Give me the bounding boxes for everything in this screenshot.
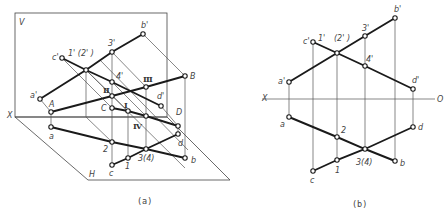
x-axis-label: X (6, 111, 13, 120)
panel-b-caption: (b) (352, 199, 367, 209)
label-4-prime: 4' (366, 55, 373, 64)
label-a-prime: a' (30, 91, 37, 100)
label-a-prime: a' (278, 77, 285, 86)
label-C: C (101, 104, 107, 113)
label-1-prime: 1' (318, 34, 325, 43)
x-axis-label: X (261, 94, 268, 103)
label-roman-1: Ⅰ (124, 100, 128, 110)
panel-a-caption: (a) (137, 196, 152, 206)
label-D: D (176, 108, 182, 117)
label-d-prime: d' (412, 76, 419, 85)
label-roman-3: Ⅲ (143, 74, 153, 84)
label-3-4: 3(4) (138, 154, 154, 163)
label-A: A (48, 100, 54, 109)
label-2: 2 (341, 126, 346, 135)
label-b: b (400, 159, 405, 168)
points (38, 32, 187, 167)
label-2-prime: (2' ) (334, 34, 350, 43)
label-c: c (310, 176, 315, 185)
panel-b: X O (261, 5, 443, 209)
label-3-4: 3(4) (356, 158, 372, 167)
label-3-prime: 3' (362, 24, 369, 33)
label-1: 1 (335, 166, 340, 175)
label-d: d (178, 139, 184, 148)
label-3-prime: 3' (108, 39, 115, 48)
crossing-lines-projection-figure: V H X b' 3' c' 1' (2' ) 4' Ⅲ Ⅱ Ⅰ Ⅳ B a' … (0, 0, 447, 216)
label-1-2-prime: 1' (2' ) (68, 49, 94, 58)
v-plane-label: V (19, 18, 25, 27)
label-B: B (190, 72, 196, 81)
label-c-prime: c' (303, 37, 310, 46)
label-d: d (418, 123, 424, 132)
label-a: a (49, 132, 54, 141)
label-d-prime: d' (157, 92, 164, 101)
label-roman-4: Ⅳ (133, 121, 143, 131)
label-b-prime: b' (141, 21, 148, 30)
label-c: c (109, 169, 114, 178)
projection-lines (40, 34, 188, 168)
label-a: a (280, 120, 285, 129)
label-roman-2: Ⅱ (103, 85, 110, 95)
h-plane (15, 117, 230, 180)
label-b-prime: b' (394, 5, 401, 14)
panel-a: V H X b' 3' c' 1' (2' ) 4' Ⅲ Ⅱ Ⅰ Ⅳ B a' … (6, 13, 230, 206)
label-1: 1 (125, 162, 130, 171)
o-axis-label: O (437, 95, 443, 104)
label-2: 2 (103, 145, 108, 154)
label-b: b (191, 156, 196, 165)
h-plane-label: H (89, 170, 95, 179)
label-c-prime: c' (52, 53, 59, 62)
label-4-prime: 4' (116, 72, 123, 81)
